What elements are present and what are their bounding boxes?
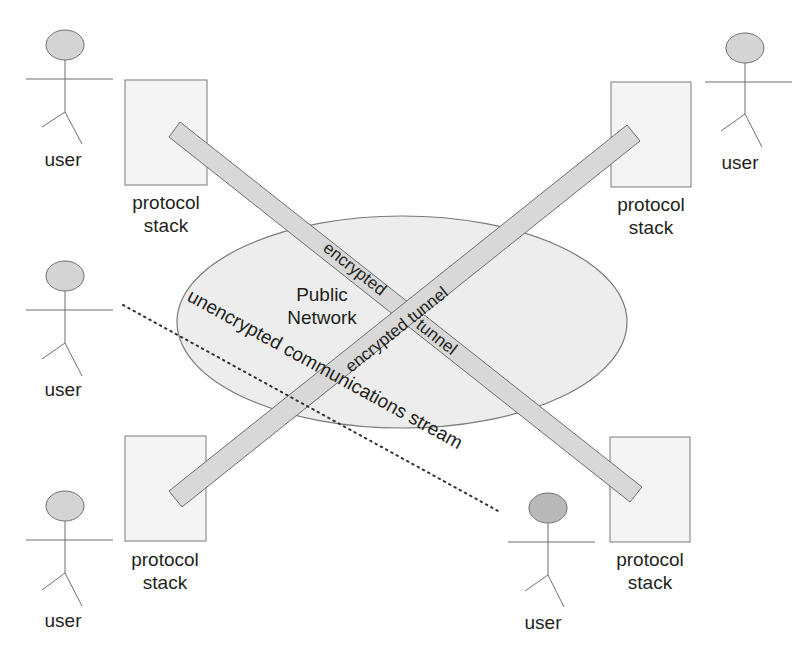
network-label-line2: Network <box>287 307 357 328</box>
protocol-stack-top-right: protocol stack <box>611 82 691 238</box>
protocol-stack-bottom-left: protocol stack <box>125 436 206 593</box>
stack-label-line2: stack <box>629 217 674 238</box>
protocol-stack-top-left: protocol stack <box>125 80 207 236</box>
user-label: user <box>45 149 83 170</box>
stack-label-line2: stack <box>144 215 189 236</box>
network-label-line1: Public <box>296 284 348 305</box>
user-bottom-left: user <box>26 491 113 631</box>
user-label: user <box>722 152 760 173</box>
user-label: user <box>45 610 83 631</box>
protocol-stack-bottom-right: protocol stack <box>610 437 690 593</box>
user-top-right: user <box>705 33 792 173</box>
vpn-diagram: Public Network protocol stack protocol s… <box>0 0 811 646</box>
stack-label-line1: protocol <box>132 192 200 213</box>
stack-label-line2: stack <box>628 572 673 593</box>
stack-label-line1: protocol <box>131 549 199 570</box>
user-label: user <box>525 612 563 633</box>
stack-label-line1: protocol <box>616 549 684 570</box>
stack-label-line1: protocol <box>617 194 685 215</box>
user-middle-left: user <box>26 261 113 400</box>
user-bottom-right: user <box>508 493 595 633</box>
user-top-left: user <box>26 30 113 170</box>
user-label: user <box>45 379 83 400</box>
stack-label-line2: stack <box>143 572 188 593</box>
